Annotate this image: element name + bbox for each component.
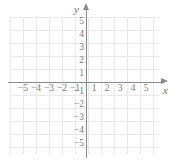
y-axis-line — [86, 8, 87, 158]
y-tick-label: 2 — [70, 56, 84, 66]
y-tick-label: −2 — [70, 100, 84, 110]
gridline-horizontal — [10, 30, 160, 31]
x-tick-label: 3 — [113, 84, 127, 94]
gridline-horizontal — [10, 134, 160, 135]
y-axis-label: y — [74, 4, 79, 15]
y-tick-label: −4 — [70, 126, 84, 136]
coordinate-plane-figure: x y −5 −4 −3 −2 −1 1 2 3 4 5 5 4 3 2 1 −… — [0, 0, 174, 164]
x-tick-label: 2 — [100, 84, 114, 94]
gridline-horizontal — [10, 56, 160, 57]
x-tick-label: −3 — [42, 84, 56, 94]
x-tick-label: 5 — [139, 84, 153, 94]
gridline-horizontal — [10, 108, 160, 109]
gridline-horizontal — [10, 17, 160, 18]
y-tick-label: 3 — [70, 43, 84, 53]
x-tick-label: −4 — [29, 84, 43, 94]
gridline-horizontal — [10, 43, 160, 44]
y-tick-label: 5 — [70, 17, 84, 27]
x-tick-label: 1 — [87, 84, 101, 94]
y-tick-label: −5 — [70, 139, 84, 149]
x-tick-label: −5 — [16, 84, 30, 94]
y-tick-label: 1 — [70, 69, 84, 79]
x-tick-label: −2 — [55, 84, 69, 94]
gridline-horizontal — [10, 147, 160, 148]
gridline-horizontal — [10, 69, 160, 70]
y-axis-arrowhead-icon — [83, 3, 89, 10]
y-tick-label: 4 — [70, 30, 84, 40]
x-axis-label: x — [163, 85, 168, 96]
y-tick-label: −1 — [70, 87, 84, 97]
gridline-horizontal — [10, 121, 160, 122]
x-tick-label: 4 — [126, 84, 140, 94]
y-tick-label: −3 — [70, 113, 84, 123]
gridline-horizontal — [10, 95, 160, 96]
